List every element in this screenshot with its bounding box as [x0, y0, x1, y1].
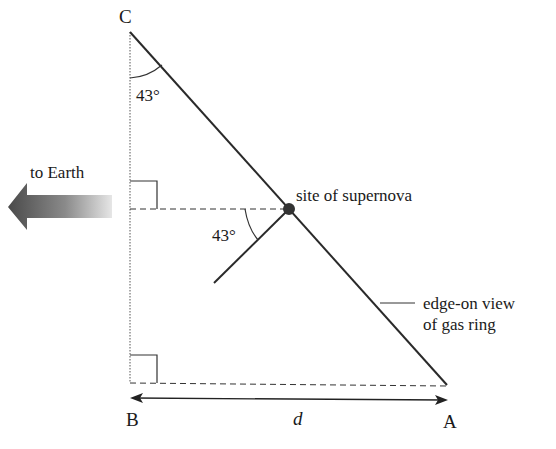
- line-ba-dashed: [130, 383, 447, 386]
- reflection-line: [214, 209, 289, 283]
- right-angle-marker-mid: [130, 181, 157, 209]
- to-earth-label: to Earth: [30, 163, 85, 182]
- distance-d-label: d: [293, 408, 303, 429]
- point-c-label: C: [119, 6, 132, 27]
- angle-arc-top: [130, 65, 162, 78]
- to-earth-arrow-icon: [8, 183, 112, 230]
- distance-arrow-line: [134, 398, 444, 400]
- ring-label-line1: edge-on view: [423, 294, 516, 313]
- ring-label-line2: of gas ring: [423, 315, 496, 334]
- right-angle-marker-bottom: [130, 355, 157, 383]
- supernova-dot: [283, 203, 295, 215]
- point-b-label: B: [126, 409, 139, 430]
- angle-arc-mid: [245, 209, 258, 240]
- supernova-label: site of supernova: [296, 186, 413, 205]
- angle-mid-label: 43°: [212, 226, 236, 245]
- supernova-geometry-diagram: C 43° to Earth site of supernova 43° edg…: [0, 0, 556, 449]
- angle-top-label: 43°: [136, 86, 160, 105]
- point-a-label: A: [443, 411, 457, 432]
